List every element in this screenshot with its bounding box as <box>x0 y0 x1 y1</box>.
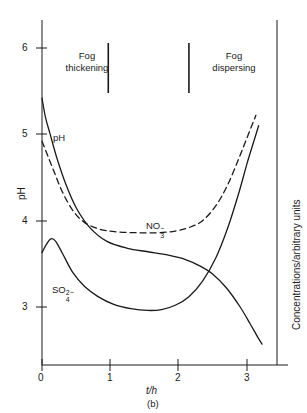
series-line-so4 <box>42 126 259 311</box>
series-label-so4-count: 4 <box>66 296 70 304</box>
series-label-no3-count: 3 <box>160 232 164 240</box>
x-tick-label-3: 3 <box>244 372 250 384</box>
series-label-no3-base: NO <box>146 220 160 231</box>
series-label-no3: NO−3 <box>146 221 160 232</box>
x-tick-label-0: 0 <box>38 372 44 384</box>
region-label-fog-thickening: Fog thickening <box>56 50 118 74</box>
region-label-fog-dispersing: Fog dispersing <box>203 50 265 74</box>
x-tick-label-2: 2 <box>175 372 181 384</box>
figure-caption: (b) <box>147 399 159 410</box>
y-tick-label-6: 6 <box>22 42 28 54</box>
figure-panel: 6 5 4 3 0 1 2 3 Fog thickening Fog dispe… <box>0 0 307 413</box>
region-label-fog-dispersing-line1: Fog <box>203 50 265 62</box>
region-label-fog-thickening-line2: thickening <box>56 62 118 74</box>
y-tick-label-4: 4 <box>22 215 28 227</box>
region-label-fog-dispersing-line2: dispersing <box>203 62 265 74</box>
series-label-so4: SO2−4 <box>52 285 66 296</box>
region-label-fog-thickening-line1: Fog <box>56 50 118 62</box>
y-tick-label-5: 5 <box>22 128 28 140</box>
x-tick-label-1: 1 <box>107 372 113 384</box>
series-line-no3 <box>42 115 256 233</box>
series-label-so4-base: SO <box>52 284 66 295</box>
series-label-ph: pH <box>53 133 65 144</box>
x-axis-title: t/h <box>146 385 157 397</box>
y-tick-label-3: 3 <box>22 301 28 313</box>
right-axis-title: Concentrations/arbitrary units <box>291 199 303 330</box>
left-axis-title: pH <box>16 187 28 200</box>
